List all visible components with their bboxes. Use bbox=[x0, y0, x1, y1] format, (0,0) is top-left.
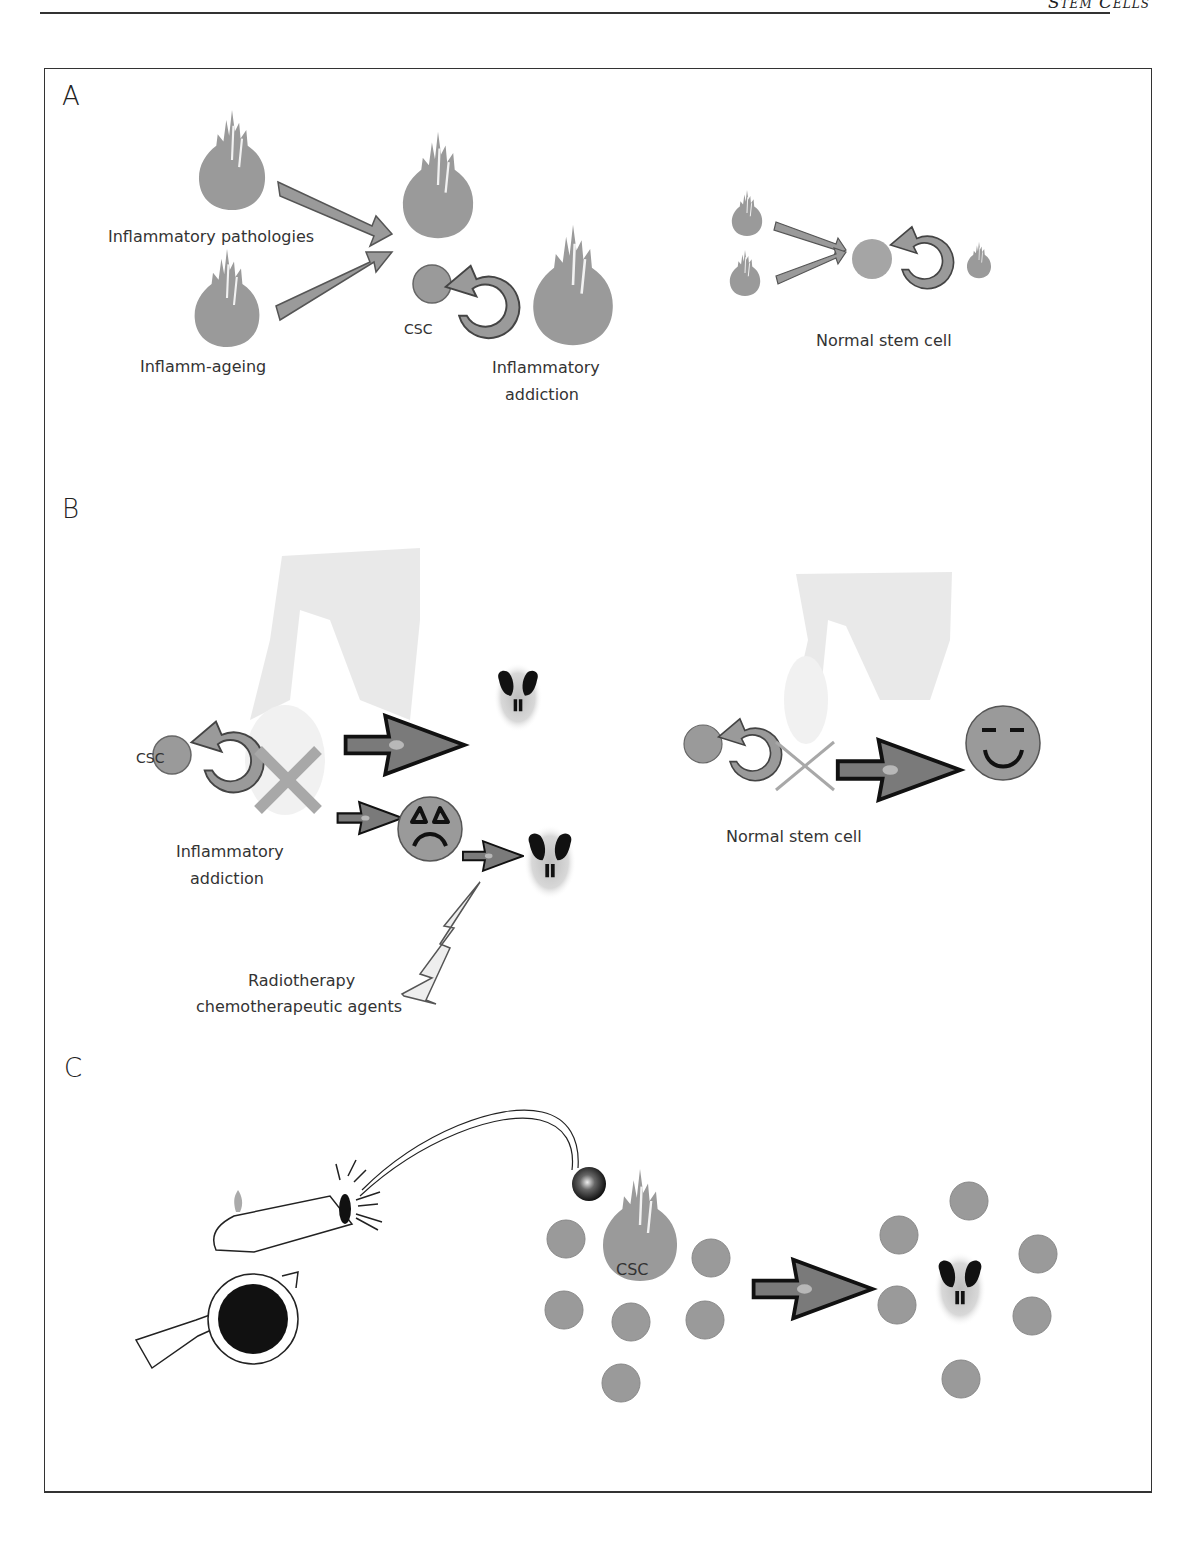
arrow-icon-to-sad bbox=[338, 802, 403, 834]
faded-silhouette-left bbox=[245, 548, 420, 815]
label-inflammatory-addiction-2: addiction bbox=[505, 385, 579, 404]
panel-c: C CSC bbox=[64, 1053, 1057, 1402]
dead-cell-icon-bottom bbox=[524, 825, 576, 900]
csc-cell-icon bbox=[413, 265, 451, 303]
label-inflamm-ageing: Inflamm-ageing bbox=[140, 357, 266, 376]
small-flame-icon-2 bbox=[730, 250, 760, 296]
big-arrow-icon-to-death bbox=[346, 716, 465, 774]
normal-stem-cell-icon bbox=[852, 239, 892, 279]
dead-cell-icon-top bbox=[494, 663, 543, 732]
flame-icon-inflammatory-pathologies bbox=[199, 110, 265, 210]
label-inflammatory-addiction-1: Inflammatory bbox=[492, 358, 600, 377]
arrow-icon-ageing-to-csc bbox=[276, 252, 392, 320]
lightning-bolt-icon bbox=[402, 882, 480, 1004]
tiny-flame-icon bbox=[967, 242, 991, 278]
small-flame-icon-1 bbox=[732, 190, 762, 236]
panel-c-letter: C bbox=[64, 1053, 82, 1083]
flame-icon-csc-niche bbox=[403, 132, 473, 238]
panel-a: A Inflammatory pathologies Inflamm-agein… bbox=[62, 81, 991, 404]
cannonball-icon bbox=[572, 1167, 606, 1201]
sad-face-icon bbox=[398, 797, 462, 861]
cannon-icon bbox=[136, 1110, 578, 1368]
label-normal-stem-cell-a: Normal stem cell bbox=[816, 331, 952, 350]
label-csc: CSC bbox=[404, 321, 433, 337]
label-csc-c: CSC bbox=[616, 1260, 649, 1279]
label-inflammatory-addiction-b1: Inflammatory bbox=[176, 842, 284, 861]
normal-cycle-icon-b bbox=[719, 719, 782, 781]
happy-face-icon bbox=[966, 706, 1040, 780]
panel-a-letter: A bbox=[62, 81, 80, 111]
label-radiotherapy: Radiotherapy bbox=[248, 971, 355, 990]
label-chemotherapeutic-agents: chemotherapeutic agents bbox=[196, 997, 402, 1016]
label-normal-stem-cell-b: Normal stem cell bbox=[726, 827, 862, 846]
big-arrow-icon-to-happy bbox=[838, 740, 960, 800]
label-csc-b: CSC bbox=[136, 750, 165, 766]
faded-silhouette-right bbox=[784, 572, 952, 744]
faint-x-icon bbox=[776, 742, 834, 790]
big-arrow-icon-treatment bbox=[754, 1260, 873, 1318]
panel-b-letter: B bbox=[62, 494, 79, 524]
figure-diagram: A Inflammatory pathologies Inflamm-agein… bbox=[0, 0, 1198, 1544]
panel-b: B CSC Inflammatory addiction Radiotherap… bbox=[62, 494, 1040, 1016]
label-inflammatory-addiction-b2: addiction bbox=[190, 869, 264, 888]
dead-csc-icon bbox=[934, 1252, 986, 1327]
normal-cycle-icon bbox=[891, 227, 954, 289]
label-inflammatory-pathologies: Inflammatory pathologies bbox=[108, 227, 314, 246]
self-renewal-cycle-icon bbox=[446, 266, 520, 338]
normal-stem-cell-icon-b bbox=[684, 725, 722, 763]
flame-icon-inflammatory-addiction bbox=[533, 225, 613, 345]
arrow-icon-to-dead-cell bbox=[463, 841, 523, 871]
flame-icon-inflamm-ageing bbox=[195, 249, 260, 347]
small-arrow-icon-2 bbox=[776, 248, 846, 284]
